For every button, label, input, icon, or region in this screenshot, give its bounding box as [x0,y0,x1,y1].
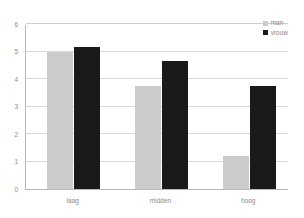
bar-chart: 0123456 laagmiddenhoog manvrouw [0,0,304,218]
legend: manvrouw [263,20,288,36]
bar-vrouw-hoog [250,86,276,189]
legend-swatch-man [263,21,268,26]
bar-vrouw-midden [162,61,188,189]
x-tick-label-hoog: hoog [223,198,273,205]
legend-label-man: man [271,20,284,27]
y-tick-label-2: 2 [2,132,18,139]
x-tick-label-midden: midden [136,198,186,205]
legend-item-vrouw[interactable]: vrouw [263,30,288,37]
y-tick-label-1: 1 [2,159,18,166]
y-tick-label-6: 6 [2,22,18,29]
gridline-6 [26,23,288,24]
y-tick-label-5: 5 [2,49,18,56]
legend-swatch-vrouw [263,30,268,35]
y-tick-label-3: 3 [2,104,18,111]
bar-man-hoog [223,156,249,189]
bar-group-laag [47,25,100,189]
bar-vrouw-laag [74,47,100,189]
bar-man-laag [47,52,73,190]
x-tick-label-laag: laag [48,198,98,205]
legend-label-vrouw: vrouw [271,30,288,37]
legend-item-man[interactable]: man [263,20,288,27]
y-tick-label-0: 0 [2,187,18,194]
bar-group-midden [135,25,188,189]
bar-man-midden [135,86,161,189]
bar-group-hoog [223,25,276,189]
x-axis-tick-labels: laagmiddenhoog [25,193,288,211]
plot-area [25,25,288,190]
y-axis-tick-labels: 0123456 [0,25,22,190]
y-tick-label-4: 4 [2,77,18,84]
